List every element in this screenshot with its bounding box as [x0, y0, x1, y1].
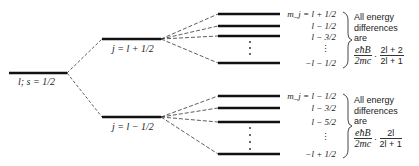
lower-fan-connectors — [161, 96, 218, 154]
lower-frac-2: 2l2l + 1 — [380, 128, 402, 150]
connector-upper — [67, 39, 102, 73]
lower-mj-label-last: −l + 1/2 — [276, 149, 336, 159]
base-level-label: l; s = 1/2 — [18, 77, 55, 87]
lower-mj-label-ellipsis: ⋮ — [270, 132, 330, 142]
upper-frac-2: 2l + 22l + 1 — [380, 45, 404, 67]
j-lower-label: j = l − 1/2 — [112, 122, 154, 132]
upper-mj-label-ellipsis: ⋮ — [270, 44, 330, 54]
lower-mj-levels — [218, 96, 280, 154]
lower-mj-label-2: l − 5/2 — [276, 117, 336, 127]
upper-fan-connectors — [161, 14, 218, 63]
upper-mj-label-0: m_j = l + 1/2 — [276, 9, 336, 19]
lower-brace — [343, 94, 352, 158]
lower-dots — [249, 127, 251, 150]
j-upper-label: j = l + 1/2 — [112, 44, 154, 54]
lower-mj-label-0: m_j = l − 1/2 — [276, 91, 336, 101]
lower-mj-label-1: l − 3/2 — [276, 103, 336, 113]
upper-energy-note: All energy differences are eħB2mc · 2l +… — [354, 12, 404, 67]
lower-energy-note: All energy differences are eħB2mc · 2l2l… — [354, 95, 402, 150]
lower-frac-1: eħB2mc — [354, 128, 372, 150]
upper-dots — [249, 41, 251, 55]
upper-mj-label-1: l − 1/2 — [276, 21, 336, 31]
upper-mj-label-2: l − 3/2 — [276, 32, 336, 42]
upper-frac-1: eħB2mc — [354, 45, 372, 67]
upper-mj-levels — [218, 14, 280, 63]
connector-lower — [67, 73, 102, 117]
upper-mj-label-last: −l − 1/2 — [276, 58, 336, 68]
upper-brace — [343, 12, 352, 68]
